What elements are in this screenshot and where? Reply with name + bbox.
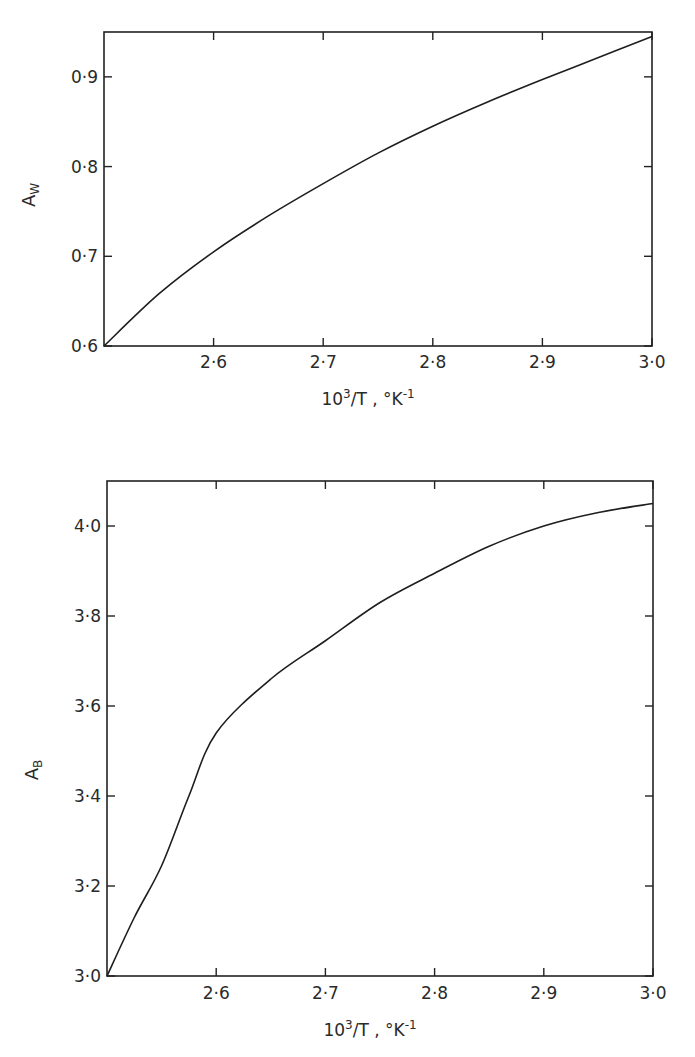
figure: 2·62·72·82·93·00·60·70·80·9103/T , °K-1A… (0, 0, 695, 1057)
chart-aw-vs-inverse-temperature: 2·62·72·82·93·00·60·70·80·9103/T , °K-1A… (18, 32, 666, 409)
y-tick-label: 3·2 (74, 876, 101, 896)
y-tick-label: 0·8 (71, 157, 98, 177)
data-curve (107, 504, 653, 977)
y-tick-label: 0·7 (71, 246, 98, 266)
x-tick-label: 2·7 (312, 983, 339, 1003)
x-tick-label: 2·7 (310, 352, 337, 372)
y-tick-label: 0·6 (71, 336, 98, 356)
plot-frame (107, 481, 653, 976)
x-tick-label: 2·8 (419, 352, 446, 372)
x-tick-label: 2·9 (529, 352, 556, 372)
x-tick-label: 3·0 (639, 983, 666, 1003)
chart-ab-vs-inverse-temperature: 2·62·72·82·93·03·03·23·43·63·84·0103/T ,… (21, 481, 667, 1040)
x-axis-title: 103/T , °K-1 (323, 1018, 416, 1040)
y-tick-label: 3·6 (74, 696, 101, 716)
x-tick-label: 3·0 (638, 352, 665, 372)
plot-frame (104, 32, 652, 346)
y-tick-label: 3·0 (74, 966, 101, 986)
data-curve (104, 36, 652, 346)
x-tick-label: 2·6 (200, 352, 227, 372)
x-axis-title: 103/T , °K-1 (321, 387, 414, 409)
y-tick-label: 0·9 (71, 67, 98, 87)
x-tick-label: 2·9 (530, 983, 557, 1003)
y-tick-label: 3·8 (74, 606, 101, 626)
x-tick-label: 2·6 (203, 983, 230, 1003)
y-tick-label: 4·0 (74, 516, 101, 536)
x-tick-label: 2·8 (421, 983, 448, 1003)
y-tick-label: 3·4 (74, 786, 101, 806)
y-axis-title: AB (21, 760, 45, 781)
y-axis-title: AW (18, 183, 42, 207)
